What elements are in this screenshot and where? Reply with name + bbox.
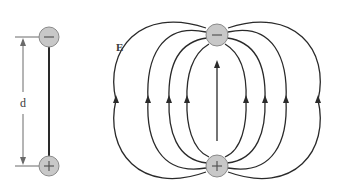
arrow-up-icon xyxy=(262,95,268,103)
positive-charge xyxy=(39,156,59,176)
field-label: E xyxy=(116,41,123,53)
separation-label: d xyxy=(20,96,26,110)
arrow-up-icon xyxy=(315,95,321,103)
field-line xyxy=(187,44,209,157)
field-line xyxy=(225,44,246,157)
arrow-up-icon xyxy=(184,95,190,103)
dipole-diagram: d xyxy=(15,27,59,176)
field-line xyxy=(228,30,286,169)
arrow-down-icon xyxy=(20,157,26,165)
arrow-up-icon xyxy=(214,60,220,68)
arrow-up-icon xyxy=(166,95,172,103)
arrow-up-icon xyxy=(20,38,26,46)
arrow-up-icon xyxy=(113,95,119,103)
dipole-figure: d xyxy=(0,0,341,194)
arrow-up-icon xyxy=(145,95,151,103)
field-negative-charge xyxy=(206,24,228,46)
arrow-up-icon xyxy=(283,95,289,103)
field-positive-charge xyxy=(206,155,228,177)
arrow-up-icon xyxy=(243,95,249,103)
negative-charge xyxy=(39,27,59,47)
separation-dimension: d xyxy=(15,37,40,166)
